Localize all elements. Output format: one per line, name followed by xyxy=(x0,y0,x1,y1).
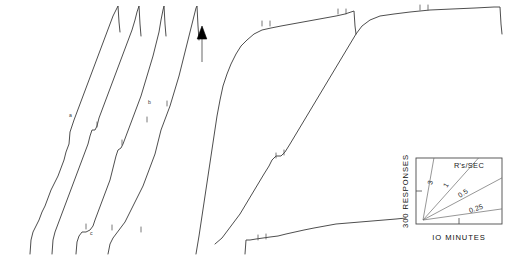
cumulative-curve xyxy=(196,11,356,254)
legend-x-axis-label: IO MINUTES xyxy=(432,233,485,242)
legend-slope-label-05: 0.5 xyxy=(457,187,469,199)
segment-label-a: a xyxy=(69,112,72,118)
cumulative-curve xyxy=(108,6,199,254)
cumulative-curve xyxy=(215,7,502,244)
cumulative-record-plot: a c b R's/SEC 3 1 0.5 0.25 300 RESPONSES… xyxy=(0,0,509,260)
segment-label-c: c xyxy=(90,230,93,236)
cumulative-curve xyxy=(245,218,406,254)
event-pips-layer xyxy=(86,5,428,240)
legend-slope-ray xyxy=(423,158,434,220)
legend-header-label: R's/SEC xyxy=(454,161,484,170)
curves-layer xyxy=(30,6,502,254)
legend-slope-ray xyxy=(423,209,502,220)
legend-slope-label-1: 1 xyxy=(442,181,450,188)
cumulative-record-figure: a c b R's/SEC 3 1 0.5 0.25 300 RESPONSES… xyxy=(0,0,509,260)
legend-slope-ray xyxy=(423,178,502,220)
cumulative-curve xyxy=(30,6,120,254)
rate-key-legend: R's/SEC 3 1 0.5 0.25 300 RESPONSES IO MI… xyxy=(401,154,502,242)
segment-label-b: b xyxy=(148,99,151,105)
cumulative-curve xyxy=(76,6,166,254)
legend-slope-label-3: 3 xyxy=(426,179,434,185)
legend-y-axis-label: 300 RESPONSES xyxy=(401,154,410,228)
